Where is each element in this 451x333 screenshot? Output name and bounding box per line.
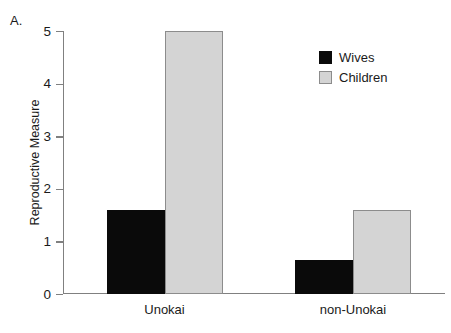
legend-label-wives: Wives	[339, 50, 374, 65]
legend: WivesChildren	[319, 47, 387, 87]
legend-label-children: Children	[339, 70, 387, 85]
plot-area: 012345 Reproductive Measure	[63, 31, 445, 294]
bar-wives-non-unokai	[295, 260, 353, 294]
y-tick-label: 0	[43, 288, 51, 302]
bar-children-non-unokai	[353, 210, 411, 294]
y-tick-mark: 0	[56, 294, 63, 295]
figure-panel-a: A. 012345 Reproductive Measure Unokainon…	[0, 0, 451, 333]
legend-swatch-children	[319, 71, 332, 84]
x-axis-label-non-unokai: non-Unokai	[283, 302, 423, 317]
bar-children-unokai	[165, 31, 223, 294]
y-tick-label: 4	[43, 78, 51, 92]
panel-label: A.	[10, 13, 23, 28]
y-tick-label: 3	[43, 130, 51, 144]
y-tick-mark: 2	[56, 189, 63, 190]
y-tick-label: 1	[43, 235, 51, 249]
y-tick-label: 5	[43, 25, 51, 39]
y-tick-mark: 4	[56, 84, 63, 85]
y-axis-title: Reproductive Measure	[26, 31, 44, 294]
legend-item-wives: Wives	[319, 47, 387, 67]
legend-item-children: Children	[319, 67, 387, 87]
y-tick-mark: 3	[56, 136, 63, 137]
bar-wives-unokai	[107, 210, 165, 294]
y-tick-label: 2	[43, 183, 51, 197]
legend-swatch-wives	[319, 51, 332, 64]
x-axis-label-unokai: Unokai	[95, 302, 235, 317]
y-tick-mark: 1	[56, 241, 63, 242]
y-tick-mark: 5	[56, 31, 63, 32]
